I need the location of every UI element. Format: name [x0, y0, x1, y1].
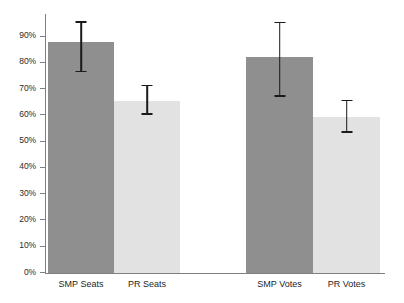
y-tick-label: 60%: [2, 109, 36, 119]
error-bar-stem: [146, 85, 148, 115]
category-label-pr-seats: PR Seats: [114, 279, 180, 289]
bar-pr-votes[interactable]: [313, 117, 380, 273]
error-bar-stem: [80, 21, 82, 72]
error-bar-stem: [346, 100, 348, 133]
plot-area: [45, 14, 385, 273]
bar-chart: 90%80%70%60%50%40%30%20%10%0% SMP SeatsP…: [0, 0, 404, 303]
error-bar-cap-lower: [142, 113, 153, 115]
y-tick-label: 70%: [2, 83, 36, 93]
category-label-smp-votes: SMP Votes: [246, 279, 313, 289]
y-tick-label: 80%: [2, 56, 36, 66]
y-tick-label: 20%: [2, 214, 36, 224]
y-tick-label: 10%: [2, 240, 36, 250]
error-bar-cap-upper: [274, 22, 285, 24]
y-tick-label: 30%: [2, 188, 36, 198]
error-bar-cap-lower: [76, 71, 87, 73]
error-bar-smp-seats: [48, 21, 114, 72]
error-bar-cap-upper: [142, 85, 153, 87]
error-bar-pr-votes: [313, 100, 380, 133]
y-tick-label: 50%: [2, 135, 36, 145]
error-bar-cap-lower: [274, 95, 285, 97]
y-tick-label: 0%: [2, 267, 36, 277]
category-label-pr-votes: PR Votes: [313, 279, 380, 289]
error-bar-cap-upper: [76, 21, 87, 23]
category-label-smp-seats: SMP Seats: [48, 279, 114, 289]
error-bar-stem: [279, 22, 281, 97]
error-bar-cap-upper: [341, 100, 352, 102]
y-tick-label: 90%: [2, 30, 36, 40]
error-bar-cap-lower: [341, 131, 352, 133]
x-axis-line: [45, 273, 385, 274]
y-tick-label: 40%: [2, 161, 36, 171]
bar-smp-seats[interactable]: [48, 42, 114, 272]
error-bar-pr-seats: [114, 85, 180, 115]
error-bar-smp-votes: [246, 22, 313, 97]
bar-pr-seats[interactable]: [114, 101, 180, 273]
